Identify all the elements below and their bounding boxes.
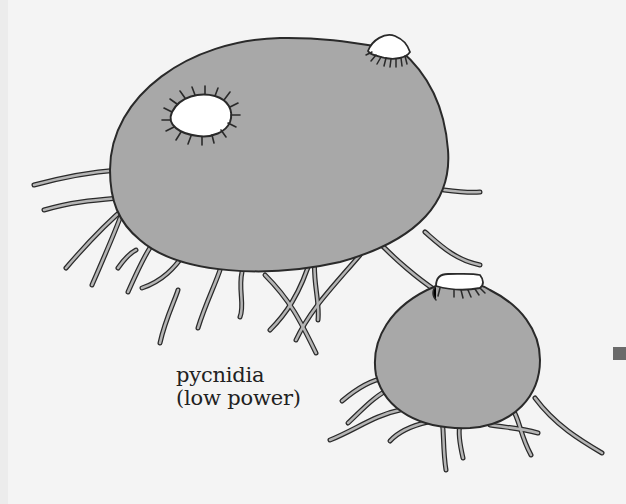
margin-marker (613, 347, 626, 360)
caption-line-2: (low power) (176, 387, 301, 410)
pycnidia-illustration (0, 0, 626, 504)
caption-line-1: pycnidia (176, 364, 301, 387)
small-pycnidium (375, 283, 540, 428)
large-pycnidium (110, 38, 448, 271)
caption: pycnidia (low power) (176, 364, 301, 410)
